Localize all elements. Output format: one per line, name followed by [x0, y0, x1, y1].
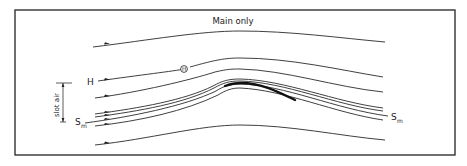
stagnation-left-sub: m — [81, 122, 87, 129]
streamline-top — [93, 31, 385, 47]
stagnation-left-label: S m — [75, 117, 87, 129]
slot-air-label: slot air — [53, 93, 61, 117]
marker-label: H — [182, 66, 186, 72]
stagnation-right-sub: m — [397, 117, 403, 124]
diagram-title: Main only — [213, 16, 254, 26]
stagnation-right-label: S m — [391, 112, 403, 124]
arrow-icon — [104, 42, 110, 44]
streamline-bottom — [95, 125, 385, 145]
airflow-diagram: Main only H H slot air S m S m — [0, 0, 467, 166]
streamline-h — [98, 58, 383, 81]
h-label: H — [87, 77, 94, 87]
marker-h-icon: H — [181, 66, 188, 73]
streamline-slot-3 — [85, 84, 388, 123]
